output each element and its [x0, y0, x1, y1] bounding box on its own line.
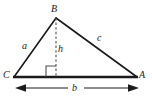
dimension-arrowhead-right-icon [128, 84, 139, 92]
triangle-diagram: B C A a c h b [0, 0, 152, 99]
triangle-side-c-line [56, 18, 137, 77]
dimension-arrowhead-left-icon [15, 84, 26, 92]
vertex-label-c: C [3, 70, 10, 80]
vertex-label-b: B [51, 4, 57, 14]
side-label-c: c [97, 33, 101, 43]
triangle-side-a-line [14, 18, 56, 77]
side-label-a: a [22, 41, 27, 51]
right-angle-marker [46, 66, 56, 77]
side-label-b: b [72, 83, 77, 93]
altitude-label-h: h [58, 44, 63, 54]
vertex-label-a: A [139, 70, 145, 80]
